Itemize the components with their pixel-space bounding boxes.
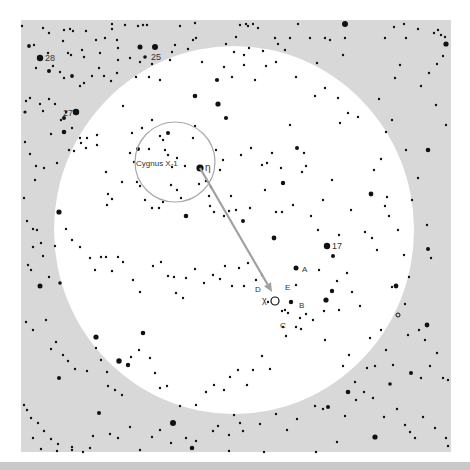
star: [286, 429, 288, 431]
star: [374, 365, 376, 367]
star: [388, 215, 390, 217]
star: [292, 204, 294, 206]
star: [85, 30, 87, 32]
star: [151, 63, 153, 65]
star: [396, 408, 398, 410]
bright-star: [346, 390, 351, 395]
label-star-d: D: [255, 285, 261, 294]
star: [369, 337, 371, 339]
star: [248, 47, 250, 49]
bright-star: [23, 110, 26, 113]
star: [25, 100, 27, 102]
label-star-c: C: [280, 321, 286, 330]
star: [182, 297, 184, 299]
star: [69, 28, 71, 30]
star: [219, 169, 221, 171]
bright-star: [426, 148, 431, 153]
star: [399, 64, 401, 66]
star: [122, 261, 124, 263]
star: [445, 124, 447, 126]
star: [42, 255, 44, 257]
star: [50, 133, 52, 135]
star: [129, 152, 131, 154]
star: [74, 368, 76, 370]
bright-star: [97, 411, 101, 415]
label-eta: η: [205, 162, 211, 173]
star: [129, 426, 131, 428]
star: [73, 150, 75, 152]
star: [213, 384, 215, 386]
star: [176, 189, 178, 191]
star: [420, 85, 422, 87]
bright-star: [323, 297, 328, 302]
star: [194, 22, 196, 24]
star: [159, 387, 161, 389]
star: [146, 24, 148, 26]
label-star-28: 28: [45, 53, 55, 63]
star: [435, 104, 437, 106]
star: [324, 87, 326, 89]
star: [32, 246, 34, 248]
bright-star: [166, 131, 170, 135]
star: [407, 334, 409, 336]
star: [203, 282, 205, 284]
star: [222, 159, 224, 161]
star: [255, 279, 257, 281]
bright-star: [289, 300, 293, 304]
star: [269, 368, 271, 370]
star: [152, 265, 154, 267]
star: [100, 256, 102, 258]
star: [239, 24, 241, 26]
star: [111, 198, 113, 200]
bright-star: [331, 254, 335, 258]
star: [215, 149, 217, 151]
star: [129, 57, 131, 59]
star: [323, 310, 325, 312]
star: [105, 171, 107, 173]
star: [32, 329, 34, 331]
star: [337, 97, 339, 99]
star: [139, 61, 141, 63]
star: [130, 356, 132, 358]
bright-star: [70, 74, 74, 78]
bright-star: [324, 243, 330, 249]
star: [162, 201, 164, 203]
star: [68, 149, 70, 151]
bright-star: [152, 44, 158, 50]
star: [295, 326, 297, 328]
star: [213, 211, 215, 213]
star: [151, 207, 153, 209]
star: [354, 381, 356, 383]
star: [117, 47, 119, 49]
star: [322, 408, 324, 410]
star: [250, 147, 252, 149]
star: [42, 110, 44, 112]
star: [105, 256, 107, 258]
star: [397, 229, 399, 231]
star: [239, 422, 241, 424]
star: [383, 416, 385, 418]
star: [281, 310, 283, 312]
star: [89, 257, 91, 259]
bright-star: [388, 382, 392, 386]
bright-star: [372, 434, 377, 439]
star: [280, 167, 282, 169]
star: [111, 23, 113, 25]
star: [277, 43, 279, 45]
star: [424, 339, 426, 341]
star: [23, 404, 25, 406]
star: [48, 98, 50, 100]
star: [394, 77, 396, 79]
star: [179, 25, 181, 27]
star: [135, 76, 137, 78]
star: [297, 23, 299, 25]
star: [295, 284, 297, 286]
star: [60, 119, 62, 121]
star: [144, 199, 146, 201]
star: [121, 394, 123, 396]
star: [262, 50, 264, 52]
star: [96, 134, 98, 136]
star: [314, 95, 316, 97]
star: [386, 196, 388, 198]
star: [110, 80, 112, 82]
